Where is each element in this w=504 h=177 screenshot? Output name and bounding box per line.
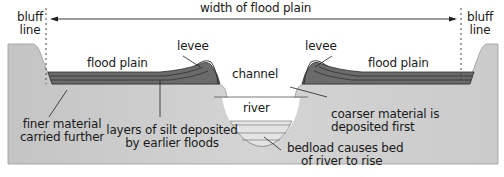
bluff-label-left: bluff line xyxy=(14,11,46,37)
levee-label-right: levee xyxy=(305,40,337,53)
width-of-flood-plain-label: width of flood plain xyxy=(200,2,311,15)
layers-of-silt-label: layers of silt deposited by earlier floo… xyxy=(98,124,246,150)
bluff-label-right: bluff line xyxy=(460,11,500,37)
channel-label: channel xyxy=(232,68,278,81)
coarser-material-label: coarser material is deposited first xyxy=(331,108,439,134)
flood-plain-diagram: bluff line bluff line width of flood pla… xyxy=(0,0,504,177)
cross-section-graphic xyxy=(0,0,504,177)
bedload-label: bedload causes bed of river to rise xyxy=(287,142,403,168)
finer-material-label: finer material carried further xyxy=(12,118,112,144)
flood-plain-label-left: flood plain xyxy=(87,57,148,70)
levee-label-left: levee xyxy=(177,40,209,53)
river-label: river xyxy=(243,102,270,115)
flood-plain-label-right: flood plain xyxy=(368,57,429,70)
